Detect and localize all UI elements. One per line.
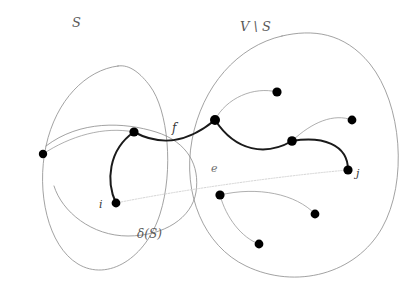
label-node-j: j	[356, 168, 359, 179]
label-set-s: S	[72, 16, 81, 29]
graph-node-n6	[287, 136, 297, 146]
label-edge-f: f	[172, 122, 176, 134]
edge-e_thin_n9_n11	[220, 195, 259, 244]
edge-e_thick_i_n2	[110, 132, 134, 203]
label-cut-delta-s: δ(S)	[137, 228, 162, 240]
graph-node-n7	[348, 116, 357, 125]
graph-node-n4	[210, 115, 220, 125]
graph-node-i	[112, 199, 121, 208]
diagram-canvas	[0, 0, 415, 286]
graph-node-n11	[255, 240, 264, 249]
edge-e_thick_n4_n6	[215, 120, 292, 149]
graph-node-n1	[39, 150, 47, 158]
edge-e_thin_n4_n5	[215, 90, 277, 120]
edge-e_thin_n9_n10	[220, 191, 315, 214]
graph-node-n5	[272, 87, 281, 96]
graph-node-n9	[215, 190, 224, 199]
edge-e_faint_e	[116, 170, 348, 203]
edge-e_thin_n6_n7	[292, 118, 352, 141]
region-outline-v_minus_s	[190, 33, 399, 277]
label-node-i: i	[99, 199, 103, 210]
label-edge-e: e	[211, 163, 218, 174]
graph-node-j	[343, 165, 352, 174]
edge-e_thick_n6_j	[292, 140, 348, 170]
graph-edges	[43, 90, 352, 244]
label-set-v-minus-s: V \ S	[240, 20, 271, 33]
cut-diagram-figure: S V \ S f e i j δ(S)	[0, 0, 415, 286]
graph-node-n10	[311, 210, 320, 219]
region-outline-delta_s_inner_left	[46, 125, 197, 236]
edge-e_thin_n1_n2	[43, 130, 134, 154]
graph-node-n2	[129, 127, 138, 136]
